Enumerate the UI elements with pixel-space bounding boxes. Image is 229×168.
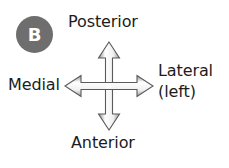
label-medial: Medial [8,75,60,94]
label-lateral-group: Lateral (left) [158,60,213,102]
label-anterior: Anterior [71,133,135,152]
label-lateral: Lateral [158,61,213,80]
four-way-arrow-svg [64,41,154,131]
label-posterior: Posterior [68,12,138,31]
label-lateral-qualifier: (left) [158,81,213,102]
anatomical-orientation-figure: B [0,0,229,168]
panel-badge-b: B [16,16,53,53]
arrow-center-junction [107,84,112,89]
four-way-arrow-icon [64,41,154,131]
